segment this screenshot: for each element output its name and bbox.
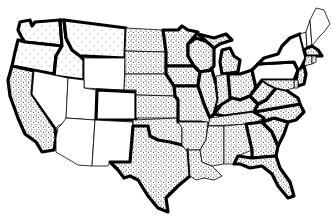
state-SD[interactable] [125,51,166,74]
state-MT[interactable] [64,20,126,58]
state-ND[interactable] [125,28,166,52]
state-MA[interactable] [304,46,322,56]
us-states-map [0,0,333,220]
state-FL[interactable] [234,156,294,198]
states-layer [8,8,330,212]
state-ME[interactable] [310,8,330,46]
state-CO[interactable] [96,90,136,120]
state-KS[interactable] [136,95,178,118]
state-NM[interactable] [92,120,133,166]
state-DE[interactable] [294,80,298,88]
state-AZ[interactable] [56,118,95,166]
map-canvas [0,0,333,220]
state-WY[interactable] [84,58,125,90]
state-RI[interactable] [312,56,316,64]
